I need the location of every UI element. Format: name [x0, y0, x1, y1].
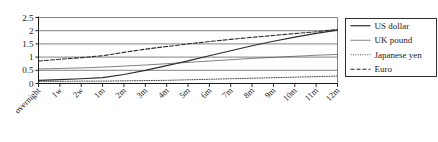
y-tick-label: 1.5: [22, 39, 34, 49]
chart-canvas: 00.511.522.5 overnight1w2w1m2m3m4m5m6m7m…: [0, 0, 438, 142]
legend: US dollarUK poundJapanese yenEuro: [346, 19, 437, 77]
y-tick-label: 2: [29, 26, 34, 36]
y-tick-label: 0.5: [22, 65, 34, 75]
line-chart: 00.511.522.5 overnight1w2w1m2m3m4m5m6m7m…: [0, 0, 438, 142]
legend-label: Japanese yen: [375, 50, 423, 60]
legend-label: Euro: [375, 64, 393, 74]
y-tick-label: 2.5: [22, 13, 34, 23]
y-tick-label: 1: [29, 52, 34, 62]
legend-label: UK pound: [375, 35, 413, 45]
legend-label: US dollar: [375, 21, 410, 31]
